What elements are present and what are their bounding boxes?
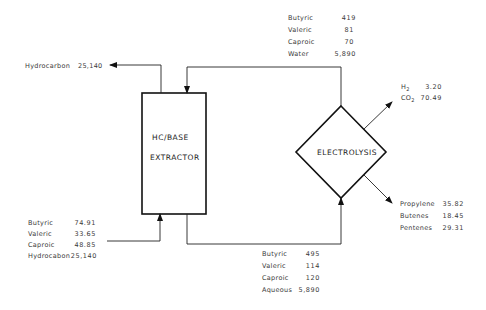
olefin-label: Propylene: [400, 200, 435, 208]
feed-label: Caproic: [28, 241, 55, 249]
aqueous-value: 120: [300, 274, 320, 282]
extractor-label-2: EXTRACTOR: [150, 153, 200, 162]
olefin-label: Pentenes: [400, 224, 432, 232]
recycle-value: 419: [320, 14, 356, 22]
recycle-value: 5,890: [314, 50, 356, 58]
gas-value-h2: 3.20: [420, 83, 442, 91]
feed-label: Hydrocabon: [28, 252, 70, 260]
aqueous-label: Caproic: [262, 274, 289, 282]
aqueous-value: 114: [300, 262, 320, 270]
aqueous-label: Valeric: [262, 262, 286, 270]
process-flow-diagram: [0, 0, 486, 310]
feed-value: 48.85: [72, 241, 96, 249]
hydrocarbon-out-line: [110, 65, 161, 93]
olefin-value: 35.82: [440, 200, 464, 208]
gas-label-co2: CO2: [401, 94, 415, 103]
aqueous-value: 5,890: [290, 286, 320, 294]
extractor-label-1: HC/BASE: [152, 133, 189, 142]
hydrocarbon-out-label: Hydrocarbon: [25, 62, 70, 70]
aqueous-line: [187, 198, 341, 244]
aqueous-label: Butyric: [262, 250, 287, 258]
olefin-label: Butenes: [400, 212, 429, 220]
feed-label: Valeric: [28, 230, 52, 238]
hydrocarbon-out-value: 25,140: [78, 62, 103, 70]
recycle-line: [187, 67, 341, 106]
recycle-label: Butyric: [288, 14, 313, 22]
olefin-value: 18.45: [440, 212, 464, 220]
feed-value: 74.91: [72, 219, 96, 227]
feed-in-line: [107, 214, 160, 241]
recycle-value: 70: [320, 38, 354, 46]
aqueous-value: 495: [300, 250, 320, 258]
olefin-value: 29.31: [440, 224, 464, 232]
gas-label-h2: H2: [401, 83, 410, 92]
feed-label: Butyric: [28, 219, 53, 227]
gas-value-co2: 70.49: [418, 94, 442, 102]
recycle-label: Caproic: [288, 38, 315, 46]
recycle-value: 81: [320, 26, 354, 34]
olefin-out-line: [364, 175, 392, 203]
feed-value: 25,140: [68, 252, 97, 260]
gas-out-line: [364, 102, 392, 129]
recycle-label: Valeric: [288, 26, 312, 34]
recycle-label: Water: [288, 50, 309, 58]
aqueous-label: Aqueous: [262, 286, 292, 294]
feed-value: 33.65: [72, 230, 96, 238]
electrolysis-label: ELECTROLYSIS: [317, 148, 377, 157]
